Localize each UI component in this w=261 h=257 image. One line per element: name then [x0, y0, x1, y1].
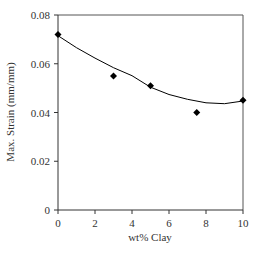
y-ticks: 00.020.040.060.08 — [31, 9, 58, 216]
x-tick-label: 8 — [203, 217, 209, 229]
x-axis-title: wt% Clay — [128, 231, 172, 243]
diamond-marker — [193, 109, 200, 116]
x-tick-label: 2 — [92, 217, 98, 229]
y-tick-label: 0.04 — [31, 107, 51, 119]
x-ticks: 0246810 — [55, 210, 249, 229]
diamond-marker — [110, 72, 117, 79]
diamond-marker — [240, 97, 247, 104]
y-tick-label: 0.08 — [31, 9, 51, 21]
x-tick-label: 10 — [238, 217, 250, 229]
x-tick-label: 6 — [166, 217, 172, 229]
y-tick-label: 0.02 — [31, 155, 50, 167]
chart: 00.020.040.060.08 0246810 wt% Clay Max. … — [0, 0, 261, 257]
x-tick-label: 0 — [55, 217, 61, 229]
plot-frame — [58, 15, 243, 210]
trend-line — [58, 36, 243, 104]
y-tick-label: 0.06 — [31, 58, 51, 70]
x-tick-label: 4 — [129, 217, 135, 229]
y-tick-label: 0 — [45, 204, 51, 216]
y-axis-title: Max. Strain (mm/mm) — [4, 62, 17, 162]
